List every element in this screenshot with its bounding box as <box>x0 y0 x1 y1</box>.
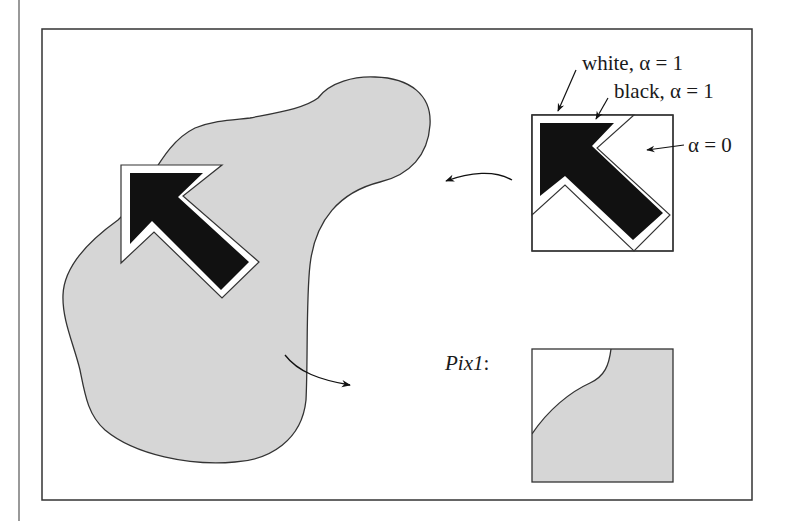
pix1-box <box>532 349 673 482</box>
white-alpha-label: white, α = 1 <box>582 51 683 75</box>
composite-arrow <box>446 173 512 181</box>
black-alpha-label: black, α = 1 <box>614 79 714 103</box>
pix1-label: Pix1: <box>444 351 489 375</box>
figure: white, α = 1 black, α = 1 α = 0 Pix1: <box>0 0 789 521</box>
alpha-zero-label: α = 0 <box>688 133 732 157</box>
white-label-pointer <box>558 70 576 111</box>
